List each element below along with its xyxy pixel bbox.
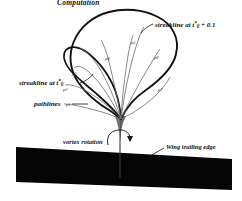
pathline-marker-p7: p7 (158, 88, 163, 93)
vortex-rotation-label: vortex rotation (63, 139, 103, 146)
vortex-streakline-figure: Computation streakline at t*0 + 0.1 stre… (0, 0, 242, 201)
streakline-outer-prefix: streakline at t (155, 21, 194, 29)
leader-wing-edge (150, 148, 164, 156)
figure-title: Computation (57, 0, 100, 7)
wing-trailing-edge-label: Wing trailing edge (166, 144, 216, 151)
streakline-inner-label: streakline at t*0 (19, 79, 63, 87)
pathline-marker-p2: p2 (63, 88, 68, 93)
pathline-p7 (121, 77, 170, 119)
vortex-rotation-arrowhead (127, 136, 133, 142)
pathline-marker-p6: p6 (154, 56, 159, 61)
pathline-marker-p1: p1 (66, 103, 71, 108)
pathline-marker-p3: p3 (72, 72, 77, 77)
pathline-marker-p5: p5 (131, 41, 136, 46)
streakline-outer-label: streakline at t*0 + 0.1 (155, 21, 216, 29)
pathline-marker-p4: p4 (105, 57, 110, 62)
wing-trailing-edge-shape (16, 147, 232, 190)
streakline-outer-suffix: + 0.1 (199, 21, 215, 29)
pathlines-group (64, 27, 170, 119)
vortex-rotation-arrow (107, 130, 130, 145)
pathlines-label: pathlines (34, 101, 60, 108)
streakline-inner-prefix: streakline at t (19, 79, 58, 87)
